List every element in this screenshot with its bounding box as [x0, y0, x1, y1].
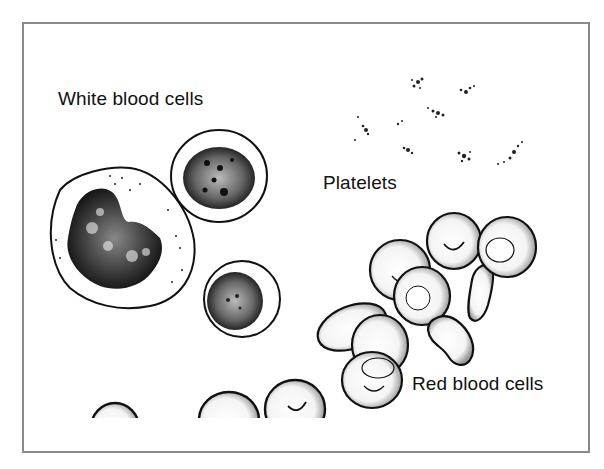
rbc-elongated [468, 265, 493, 321]
platelet-cluster [458, 151, 472, 162]
platelet-cluster [403, 147, 413, 155]
platelet-cluster [354, 116, 369, 141]
rbc [342, 352, 402, 408]
rbc-curved [428, 316, 473, 365]
rbc [427, 213, 481, 269]
platelet-cluster [411, 78, 424, 90]
white-blood-cell-small [204, 261, 280, 337]
platelet-cluster [427, 107, 445, 118]
blood-cells-illustration [0, 0, 604, 469]
platelets-label: Platelets [323, 172, 397, 194]
rbc [265, 380, 325, 438]
platelet-cluster [497, 141, 523, 165]
white-blood-cell-medium [171, 130, 267, 222]
rbc [199, 392, 259, 448]
platelet-cluster [460, 85, 475, 94]
red-blood-cells-bottom-row [91, 380, 325, 453]
platelet-cluster [397, 120, 403, 125]
rbc [91, 403, 139, 453]
platelets [354, 78, 523, 166]
white-blood-cells-label: White blood cells [58, 88, 203, 110]
red-blood-cells-label: Red blood cells [412, 373, 543, 395]
